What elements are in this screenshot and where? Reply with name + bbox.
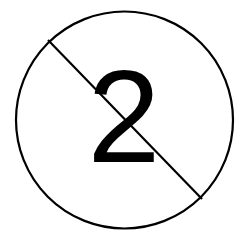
- number-label: 2: [88, 43, 161, 190]
- no-number-two-sign: 2: [0, 0, 248, 241]
